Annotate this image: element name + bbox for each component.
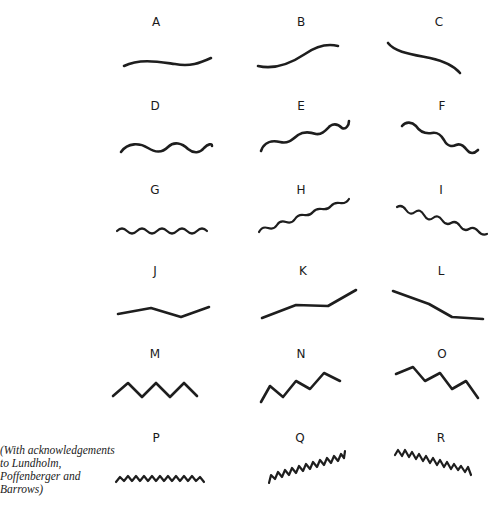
line-j xyxy=(118,307,209,317)
line-o xyxy=(396,367,478,398)
line-q xyxy=(269,451,345,483)
line-p xyxy=(116,476,204,482)
line-a xyxy=(124,58,211,66)
line-i xyxy=(397,206,487,235)
line-r xyxy=(395,450,471,475)
line-k xyxy=(262,290,356,318)
line-c xyxy=(388,43,460,73)
line-quality-figure: A B C D E F G H I J K L M N O P Q R (Wit… xyxy=(0,0,503,516)
line-d xyxy=(121,143,212,152)
line-e xyxy=(261,121,349,151)
line-l xyxy=(393,291,483,319)
line-m xyxy=(113,383,197,397)
line-b xyxy=(258,45,338,67)
line-f xyxy=(402,123,478,153)
line-drawings xyxy=(0,0,503,516)
line-g xyxy=(117,229,207,234)
line-n xyxy=(261,373,340,402)
line-h xyxy=(259,199,349,232)
